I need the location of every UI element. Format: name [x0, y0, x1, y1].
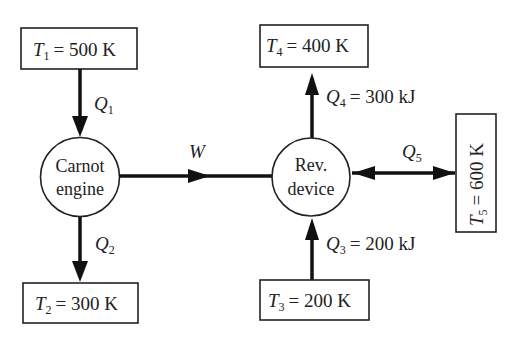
reservoir-t4: T4= 400 K [260, 25, 368, 67]
svg-text:device: device [288, 179, 335, 199]
arrow-q4: Q4= 300 kJ [305, 73, 415, 138]
arrow-q2: Q2 [72, 217, 115, 282]
svg-text:Q5: Q5 [402, 141, 422, 165]
arrow-q1: Q1 [72, 69, 114, 137]
reservoir-t1: T1= 500 K [21, 28, 137, 69]
arrow-w: W [119, 141, 273, 183]
svg-text:Rev.: Rev. [295, 155, 327, 175]
reversible-device: Rev. device [272, 138, 350, 216]
reservoir-t3: T3= 200 K [260, 280, 369, 320]
svg-text:Q3= 200 kJ: Q3= 200 kJ [326, 233, 415, 257]
reservoir-t2: T2= 300 K [23, 283, 138, 323]
arrow-q5: Q5 [352, 141, 455, 180]
carnot-engine: Carnot engine [41, 138, 120, 217]
reservoir-t5: T5= 600 K [456, 114, 496, 232]
svg-text:Carnot: Carnot [56, 156, 105, 176]
heat-engine-diagram: T1= 500 K Q1 Carnot engine Q2 T2= 300 K … [0, 0, 522, 341]
svg-text:Q2: Q2 [95, 233, 115, 257]
svg-text:engine: engine [56, 179, 104, 199]
svg-text:Q1: Q1 [94, 93, 114, 117]
svg-text:Q4= 300 kJ: Q4= 300 kJ [326, 86, 415, 110]
arrow-q3: Q3= 200 kJ [305, 218, 415, 280]
svg-text:W: W [189, 141, 207, 162]
